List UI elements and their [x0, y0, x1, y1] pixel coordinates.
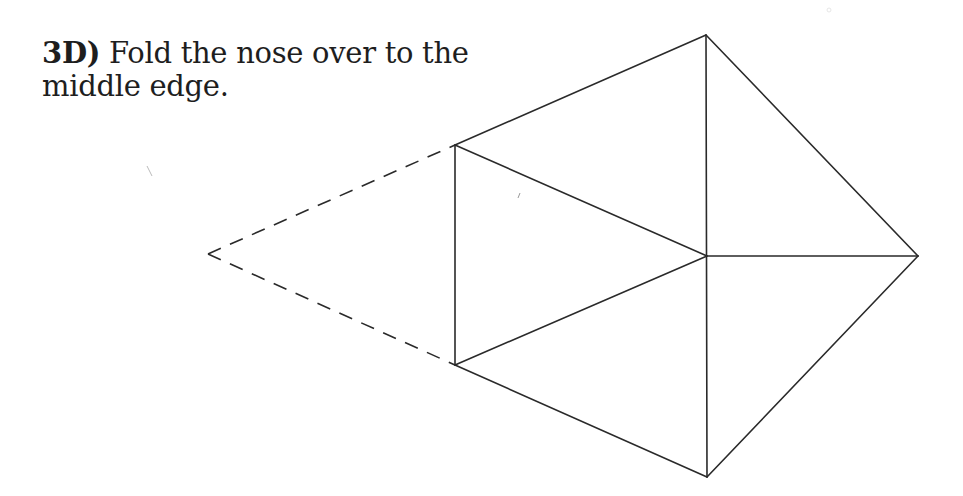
- fold-line-top_apex-right_tip: [706, 35, 918, 256]
- solid-fold-lines: [455, 35, 918, 477]
- dashed-line-nose_tip-upper_left: [208, 145, 455, 254]
- fold-line-upper_left-center: [455, 145, 707, 256]
- stray-mark: [827, 8, 831, 12]
- dashed-nose-outline: [208, 145, 455, 365]
- fold-line-bottom_apex-lower_left: [455, 365, 707, 477]
- scan-marks: [147, 8, 831, 198]
- fold-line-right_tip-bottom_apex: [707, 256, 918, 477]
- fold-line-upper_left-top_apex: [455, 35, 706, 145]
- fold-diagram: [0, 0, 963, 496]
- stray-mark: [518, 193, 520, 198]
- fold-line-lower_left-center: [455, 256, 707, 365]
- dashed-line-nose_tip-lower_left: [208, 254, 455, 365]
- stray-mark: [147, 166, 152, 176]
